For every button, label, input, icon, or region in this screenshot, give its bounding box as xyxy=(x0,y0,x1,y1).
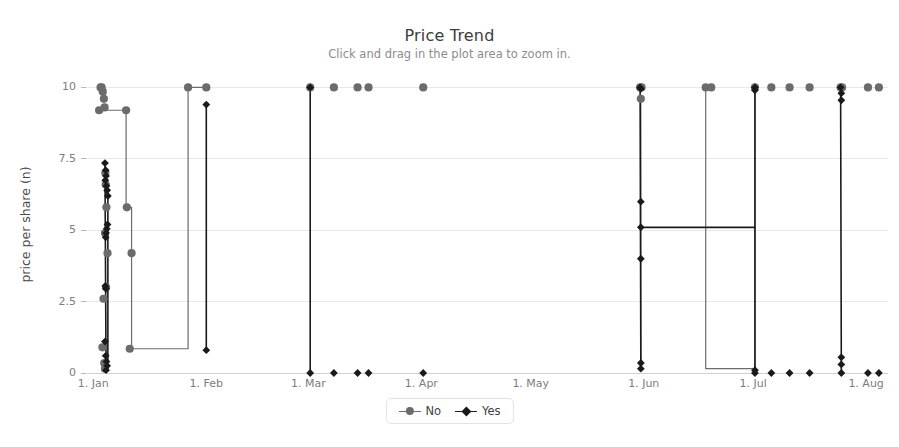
data-point-no[interactable] xyxy=(99,88,107,96)
data-point-no[interactable] xyxy=(364,83,372,91)
data-point-yes[interactable] xyxy=(354,369,362,377)
y-axis-title: price per share (n) xyxy=(18,166,33,282)
legend-marker-diamond-icon xyxy=(455,406,477,416)
x-tick-label: 1. Feb xyxy=(190,377,223,390)
data-point-no[interactable] xyxy=(806,83,814,91)
data-point-no[interactable] xyxy=(100,95,108,103)
y-tick-labels: 02.557.510 xyxy=(59,80,77,379)
data-point-yes[interactable] xyxy=(806,369,814,377)
data-point-yes[interactable] xyxy=(837,369,845,377)
data-point-no[interactable] xyxy=(419,83,427,91)
data-point-no[interactable] xyxy=(102,203,110,211)
data-point-no[interactable] xyxy=(127,249,135,257)
legend-label: No xyxy=(425,404,441,418)
data-point-yes[interactable] xyxy=(837,96,845,104)
data-point-no[interactable] xyxy=(122,106,130,114)
data-point-yes[interactable] xyxy=(786,369,794,377)
data-point-no[interactable] xyxy=(785,83,793,91)
data-point-yes[interactable] xyxy=(306,369,314,377)
y-tick-label: 0 xyxy=(69,366,76,379)
data-point-yes[interactable] xyxy=(365,369,373,377)
data-point-no[interactable] xyxy=(353,83,361,91)
x-tick-label: 1. May xyxy=(512,377,549,390)
chart-legend[interactable]: NoYes xyxy=(385,398,513,424)
data-point-no[interactable] xyxy=(103,249,111,257)
y-tick-label: 7.5 xyxy=(59,152,77,165)
data-point-yes[interactable] xyxy=(419,369,427,377)
data-point-yes[interactable] xyxy=(637,198,645,206)
legend-marker-circle-icon xyxy=(398,406,420,416)
data-point-yes[interactable] xyxy=(837,353,845,361)
y-tick-label: 10 xyxy=(62,80,76,93)
data-point-no[interactable] xyxy=(202,83,210,91)
data-point-no[interactable] xyxy=(330,83,338,91)
data-point-yes[interactable] xyxy=(837,361,845,369)
legend-item-no[interactable]: No xyxy=(398,404,441,418)
x-tick-labels: 1. Jan1. Feb1. Mar1. Apr1. May1. Jun1. J… xyxy=(78,377,884,390)
plot-area[interactable]: 02.557.510 1. Jan1. Feb1. Mar1. Apr1. Ma… xyxy=(0,0,899,447)
data-point-no[interactable] xyxy=(637,95,645,103)
data-point-yes[interactable] xyxy=(864,369,872,377)
data-point-no[interactable] xyxy=(126,345,134,353)
data-point-no[interactable] xyxy=(95,106,103,114)
x-tick-label: 1. Jan xyxy=(78,377,109,390)
data-point-no[interactable] xyxy=(123,203,131,211)
data-point-yes[interactable] xyxy=(637,255,645,263)
data-point-no[interactable] xyxy=(864,83,872,91)
price-trend-chart: Price Trend Click and drag in the plot a… xyxy=(0,0,899,447)
data-point-yes[interactable] xyxy=(637,365,645,373)
x-tick-label: 1. Jun xyxy=(628,377,659,390)
data-point-no[interactable] xyxy=(767,83,775,91)
data-point-yes[interactable] xyxy=(767,369,775,377)
x-tick-label: 1. Mar xyxy=(291,377,326,390)
data-point-yes[interactable] xyxy=(202,101,210,109)
y-axis-title-group: price per share (n) xyxy=(18,166,33,282)
data-point-yes[interactable] xyxy=(202,346,210,354)
series-line-yes xyxy=(841,87,842,373)
y-tick-label: 2.5 xyxy=(59,295,77,308)
data-point-yes[interactable] xyxy=(875,369,883,377)
data-point-no[interactable] xyxy=(875,83,883,91)
data-point-no[interactable] xyxy=(184,83,192,91)
x-tick-label: 1. Aug xyxy=(848,377,883,390)
data-point-no[interactable] xyxy=(707,83,715,91)
data-point-yes[interactable] xyxy=(330,369,338,377)
data-point-no[interactable] xyxy=(99,295,107,303)
x-tick-label: 1. Jul xyxy=(739,377,766,390)
series-line-no xyxy=(127,87,206,348)
data-point-yes[interactable] xyxy=(101,159,109,167)
y-tick-label: 5 xyxy=(69,223,76,236)
x-tick-label: 1. Apr xyxy=(405,377,438,390)
legend-item-yes[interactable]: Yes xyxy=(455,404,501,418)
legend-label: Yes xyxy=(482,404,501,418)
